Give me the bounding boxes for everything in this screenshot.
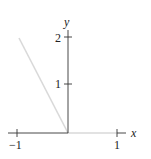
y-tick-label-2: 2: [55, 31, 61, 45]
axes: [8, 30, 126, 137]
x-axis-label: x: [130, 126, 137, 140]
y-tick-label-1: 1: [55, 77, 61, 91]
y-axis-label: y: [63, 15, 70, 29]
x-tick-label-neg1: −1: [9, 138, 22, 152]
x-tick-label-1: 1: [114, 138, 120, 152]
function-plot: −1 1 1 2 x y: [0, 0, 151, 159]
